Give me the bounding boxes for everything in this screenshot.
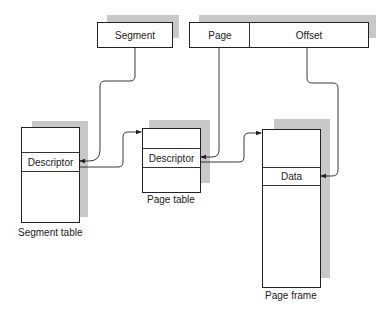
page-table-caption: Page table [147, 194, 195, 205]
segment-field: Segment [97, 22, 173, 48]
page-field-label: Page [190, 23, 250, 47]
page-frame: Data [262, 129, 321, 288]
segment-field-label: Segment [98, 23, 172, 47]
page-table-descriptor-row: Descriptor [143, 148, 200, 168]
segment-table-descriptor-label: Descriptor [28, 157, 74, 168]
segment-to-segment-table-arrow [80, 48, 135, 161]
segment-table: Descriptor [21, 127, 80, 223]
page-table-descriptor-label: Descriptor [149, 153, 195, 164]
page-offset-field: Page Offset [189, 22, 369, 48]
segment-table-to-page-table-arrow [80, 132, 141, 167]
page-frame-data-label: Data [281, 171, 302, 182]
offset-field-label: Offset [250, 23, 368, 47]
page-table: Descriptor [142, 128, 201, 193]
segment-table-caption: Segment table [18, 227, 83, 238]
segment-table-descriptor-row: Descriptor [22, 152, 79, 172]
page-table-to-page-frame-arrow [201, 133, 261, 162]
page-frame-caption: Page frame [265, 290, 317, 301]
page-frame-data-row: Data [263, 167, 320, 186]
